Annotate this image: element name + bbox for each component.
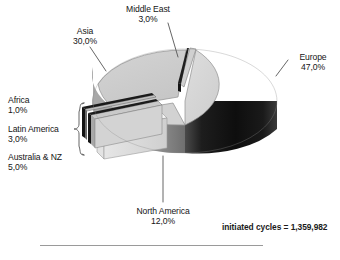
callout-australia-nz: Australia & NZ 5,0% — [8, 152, 62, 173]
callout-asia-value: 30,0% — [52, 36, 118, 46]
callout-north-america-value: 12,0% — [118, 216, 208, 226]
callout-north-america-name: North America — [118, 206, 208, 216]
callout-latin-america-value: 3,0% — [8, 134, 59, 144]
footer-divider — [40, 245, 263, 246]
callout-australia-nz-name: Australia & NZ — [8, 152, 62, 162]
callout-north-america: North America 12,0% — [118, 206, 208, 227]
callout-middle-east-value: 3,0% — [108, 14, 188, 24]
callout-asia-name: Asia — [52, 26, 118, 36]
leader-line-asia — [90, 47, 106, 71]
callout-australia-nz-value: 5,0% — [8, 162, 62, 172]
callout-europe-value: 47,0% — [288, 62, 338, 72]
callout-middle-east-name: Middle East — [108, 4, 188, 14]
callout-africa: Africa 1,0% — [8, 95, 29, 116]
pie-chart-figure: Middle East 3,0% Asia 30,0% Europe 47,0%… — [0, 0, 340, 260]
callout-latin-america-name: Latin America — [8, 124, 59, 134]
callout-europe: Europe 47,0% — [288, 52, 338, 73]
chart-annotation: initiated cycles = 1,359,982 — [222, 222, 327, 232]
callout-africa-name: Africa — [8, 95, 29, 105]
callout-africa-value: 1,0% — [8, 105, 29, 115]
callout-latin-america: Latin America 3,0% — [8, 124, 59, 145]
callout-europe-name: Europe — [288, 52, 338, 62]
callout-middle-east: Middle East 3,0% — [108, 4, 188, 25]
callout-asia: Asia 30,0% — [52, 26, 118, 47]
leader-line-europe — [276, 60, 288, 76]
